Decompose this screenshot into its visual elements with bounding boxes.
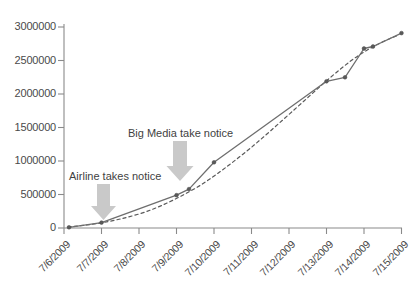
- data-point: [362, 47, 366, 51]
- big-media-annotation-label: Big Media take notice: [128, 127, 233, 139]
- y-tick-label: 1000000: [0, 154, 56, 166]
- data-point: [175, 193, 179, 197]
- y-tick-label: 3000000: [0, 20, 56, 32]
- data-point: [343, 75, 347, 79]
- y-tick-label: 2000000: [0, 87, 56, 99]
- y-tick-label: 500000: [0, 188, 56, 200]
- data-point-markers: [67, 31, 403, 229]
- y-tick-label: 1500000: [0, 121, 56, 133]
- data-point: [100, 221, 104, 225]
- data-point: [67, 225, 71, 229]
- y-tick-label: 0: [0, 221, 56, 233]
- data-line-solid: [69, 33, 402, 227]
- data-point: [400, 31, 404, 35]
- data-point: [212, 160, 216, 164]
- x-tick-marks: [64, 228, 402, 234]
- data-point: [325, 79, 329, 83]
- trendline-dashed: [68, 35, 399, 227]
- airline-arrow-icon: [91, 184, 116, 220]
- chart-container: 3000000 2500000 2000000 1500000 1000000 …: [0, 0, 415, 291]
- data-point: [371, 45, 375, 49]
- data-point: [187, 187, 191, 191]
- y-tick-marks: [58, 27, 64, 228]
- big-media-arrow-icon: [167, 141, 194, 181]
- airline-annotation-label: Airline takes notice: [69, 170, 161, 182]
- y-tick-label: 2500000: [0, 54, 56, 66]
